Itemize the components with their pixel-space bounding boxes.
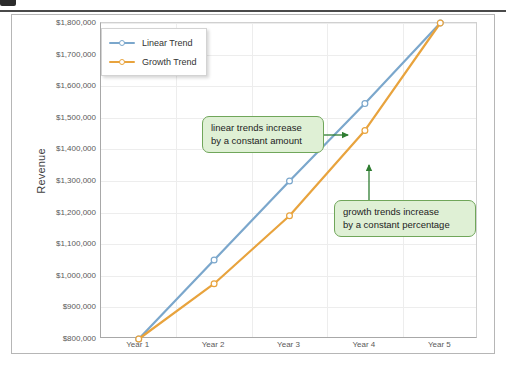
y-axis-tick-label: $900,000: [16, 302, 96, 311]
legend-label-linear: Linear Trend: [142, 38, 193, 48]
y-axis-tick-label: $1,400,000: [16, 144, 96, 153]
legend-marker-linear-icon: [109, 38, 135, 48]
callout-growth-trend: growth trends increase by a constant per…: [334, 200, 476, 237]
chart-legend[interactable]: Linear Trend Growth Trend: [101, 28, 207, 76]
x-axis-tick-label: Year 3: [254, 340, 324, 349]
callout-linear-trend: linear trends increase by a constant amo…: [202, 116, 324, 153]
top-cutoff-stub: [0, 0, 16, 6]
data-point-marker[interactable]: [437, 20, 443, 26]
x-axis-tick-label: Year 2: [178, 340, 248, 349]
data-point-marker[interactable]: [362, 101, 368, 107]
data-point-marker[interactable]: [287, 213, 293, 219]
top-cutoff-strip: · · ·· ·· ·: [0, 0, 506, 12]
legend-label-growth: Growth Trend: [142, 57, 197, 67]
y-axis-tick-label: $1,100,000: [16, 239, 96, 248]
data-point-marker[interactable]: [211, 257, 217, 263]
y-axis-tick-label: $800,000: [16, 334, 96, 343]
y-axis-tick-label: $1,300,000: [16, 176, 96, 185]
y-axis-tick-label: $1,600,000: [16, 81, 96, 90]
top-cutoff-glyph: · · ·· ·· ·: [40, 0, 78, 1]
legend-item-growth-trend[interactable]: Growth Trend: [109, 53, 197, 70]
legend-marker-growth-icon: [109, 57, 135, 67]
data-point-marker[interactable]: [211, 281, 217, 287]
data-point-marker[interactable]: [362, 128, 368, 134]
y-axis-tick-label: $1,800,000: [16, 18, 96, 27]
y-axis-tick-label: $1,000,000: [16, 270, 96, 279]
chart-container[interactable]: Revenue $800,000$900,000$1,000,000$1,100…: [11, 14, 495, 354]
x-axis-tick-label: Year 1: [103, 340, 173, 349]
x-axis-tick-label: Year 5: [404, 340, 474, 349]
data-point-marker[interactable]: [287, 178, 293, 184]
x-axis-tick-labels: Year 1Year 2Year 3Year 4Year 5: [100, 340, 477, 354]
legend-item-linear-trend[interactable]: Linear Trend: [109, 34, 197, 51]
y-axis-tick-label: $1,700,000: [16, 49, 96, 58]
y-axis-tick-label: $1,500,000: [16, 112, 96, 121]
y-axis-tick-label: $1,200,000: [16, 207, 96, 216]
y-axis-tick-labels: $800,000$900,000$1,000,000$1,100,000$1,2…: [12, 22, 96, 338]
x-axis-tick-label: Year 4: [329, 340, 399, 349]
